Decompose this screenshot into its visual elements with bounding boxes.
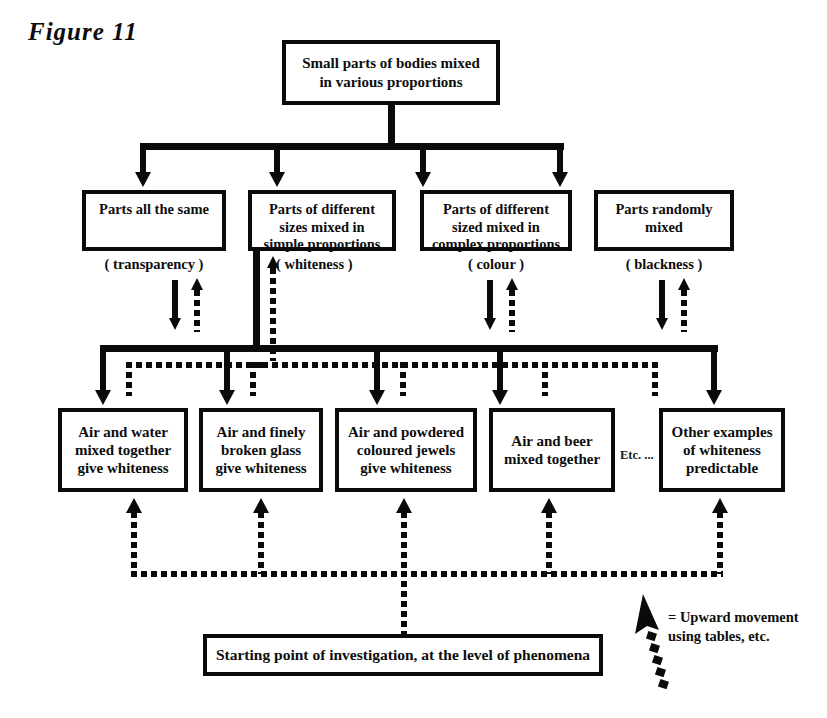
drop-leg-2 xyxy=(274,143,280,175)
row3-arrowhead-4 xyxy=(492,390,508,405)
legend-label: = Upward movement using tables, etc. xyxy=(668,608,826,646)
node-other-examples: Other examples of whiteness predictable xyxy=(659,408,785,492)
pair3-down-shaft xyxy=(487,280,493,322)
drop-arrowhead-3 xyxy=(415,172,431,187)
trunk-bus xyxy=(140,143,564,150)
pair3-down-arrowhead xyxy=(484,318,496,330)
node-small-parts-of-bodies: Small parts of bodies mixed in various p… xyxy=(282,40,500,105)
drop-arrowhead-1 xyxy=(135,172,151,187)
dashed-riser-4 xyxy=(542,362,548,396)
whiteness-down-stem xyxy=(253,251,260,348)
bottom-up-shaft-5 xyxy=(717,512,723,574)
drop-arrowhead-2 xyxy=(269,172,285,187)
paren-label-colour: ( colour ) xyxy=(420,256,572,273)
row3-leg-5 xyxy=(711,345,717,393)
paren-label-blackness: ( blackness ) xyxy=(594,256,734,273)
dashed-feedback-bus-a xyxy=(126,362,268,368)
pair4-down-arrowhead xyxy=(656,318,668,330)
etc-note: Etc. ... xyxy=(620,448,654,463)
row3-arrowhead-1 xyxy=(95,390,111,405)
paren-label-transparency: ( transparency ) xyxy=(82,256,226,273)
drop-leg-3 xyxy=(420,143,426,175)
pair4-down-shaft xyxy=(659,280,665,322)
bottom-box-dashed-stem xyxy=(401,571,407,634)
row3-leg-3 xyxy=(374,345,380,393)
node-air-and-beer: Air and beer mixed together xyxy=(489,408,615,492)
dashed-riser-1 xyxy=(126,362,132,396)
node-air-and-water: Air and water mixed together give whiten… xyxy=(58,408,188,492)
dashed-riser-3 xyxy=(400,362,406,396)
bottom-up-shaft-4 xyxy=(546,512,552,574)
secondary-bus-right xyxy=(253,345,718,352)
node-parts-simple-proportions: Parts of different sizes mixed in simple… xyxy=(248,190,396,251)
node-parts-randomly-mixed: Parts randomly mixed xyxy=(594,190,734,251)
pair3-up-dashed-shaft xyxy=(509,290,515,332)
bottom-up-arrowhead-2 xyxy=(253,498,269,513)
node-air-and-jewels: Air and powdered coloured jewels give wh… xyxy=(335,408,477,492)
drop-leg-4 xyxy=(557,143,563,175)
node-parts-all-the-same: Parts all the same xyxy=(82,190,226,251)
bottom-up-arrowhead-4 xyxy=(541,498,557,513)
node-parts-complex-proportions: Parts of different sized mixed in comple… xyxy=(420,190,572,251)
secondary-bus-left xyxy=(100,345,260,352)
row3-arrowhead-3 xyxy=(369,390,385,405)
row3-arrowhead-5 xyxy=(706,390,722,405)
pair1-down-arrowhead xyxy=(169,318,181,330)
drop-arrowhead-4 xyxy=(552,172,568,187)
pair4-up-dashed-shaft xyxy=(681,290,687,332)
pair4-up-arrowhead xyxy=(678,278,690,290)
figure-canvas: Figure 11 Small parts of bodies mixed in… xyxy=(0,0,827,718)
pair3-up-arrowhead xyxy=(506,278,518,290)
dashed-riser-5 xyxy=(652,362,658,396)
figure-label: Figure 11 xyxy=(28,18,138,46)
whiteness-up-arrowhead xyxy=(267,256,279,268)
row3-leg-1 xyxy=(100,345,106,393)
bottom-up-shaft-3 xyxy=(401,512,407,574)
dashed-feedback-bus-c xyxy=(552,362,658,368)
pair1-up-arrowhead xyxy=(191,278,203,290)
bottom-dashed-rail xyxy=(131,571,723,577)
trunk-stem xyxy=(388,105,395,148)
row3-arrowhead-2 xyxy=(219,390,235,405)
dashed-riser-2 xyxy=(250,362,256,396)
pair1-down-shaft xyxy=(172,280,178,322)
bottom-up-shaft-1 xyxy=(131,512,137,574)
bottom-up-arrowhead-5 xyxy=(712,498,728,513)
node-air-and-glass: Air and finely broken glass give whitene… xyxy=(199,408,323,492)
bottom-up-arrowhead-3 xyxy=(396,498,412,513)
row3-leg-2 xyxy=(224,345,230,393)
node-starting-point: Starting point of investigation, at the … xyxy=(203,634,603,676)
pair1-up-dashed-shaft xyxy=(194,290,200,332)
drop-leg-1 xyxy=(140,143,146,175)
bottom-up-shaft-2 xyxy=(258,512,264,574)
row3-leg-4 xyxy=(497,345,503,393)
bottom-up-arrowhead-1 xyxy=(126,498,142,513)
paren-label-whiteness: ( whiteness ) xyxy=(276,256,396,273)
